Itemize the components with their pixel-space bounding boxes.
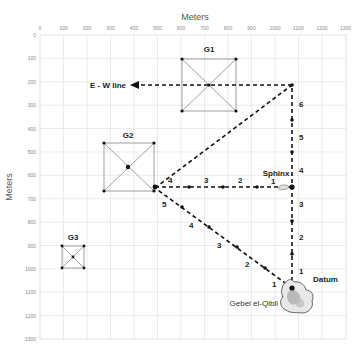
svg-text:1: 1 xyxy=(299,267,304,276)
svg-text:900: 900 xyxy=(28,243,37,249)
y-axis-ticks: 0 100 200 300 400 500 600 700 800 900 10… xyxy=(25,32,36,342)
svg-text:2: 2 xyxy=(238,176,243,185)
svg-text:500: 500 xyxy=(28,149,37,155)
svg-text:800: 800 xyxy=(224,25,233,31)
datum-point xyxy=(289,285,294,290)
svg-text:4: 4 xyxy=(168,176,173,185)
svg-text:600: 600 xyxy=(177,25,186,31)
svg-text:700: 700 xyxy=(200,25,209,31)
svg-text:1200: 1200 xyxy=(25,313,36,319)
sphinx-label: Sphinx xyxy=(263,169,290,178)
giza-layout-diagram: Meters Meters 0 100 200 300 400 500 600 … xyxy=(0,0,360,353)
svg-text:1100: 1100 xyxy=(25,289,36,295)
svg-text:0: 0 xyxy=(33,32,36,38)
svg-text:1: 1 xyxy=(272,280,277,289)
svg-text:1000: 1000 xyxy=(269,25,280,31)
svg-text:700: 700 xyxy=(28,196,37,202)
svg-text:4: 4 xyxy=(189,221,194,230)
datum-label: Datum xyxy=(313,275,338,284)
svg-text:800: 800 xyxy=(28,219,37,225)
svg-text:200: 200 xyxy=(28,79,37,85)
svg-text:1200: 1200 xyxy=(316,25,327,31)
gebel-label: Gebel el-Qibli xyxy=(230,299,279,308)
svg-text:2: 2 xyxy=(299,233,304,242)
svg-text:400: 400 xyxy=(130,25,139,31)
g1-label: G1 xyxy=(204,45,215,54)
svg-text:3: 3 xyxy=(204,176,209,185)
svg-text:300: 300 xyxy=(28,102,37,108)
svg-text:1300: 1300 xyxy=(25,336,36,342)
svg-text:900: 900 xyxy=(247,25,256,31)
svg-text:4: 4 xyxy=(299,166,304,175)
g3-label: G3 xyxy=(68,233,79,242)
svg-text:6: 6 xyxy=(299,100,304,109)
svg-text:400: 400 xyxy=(28,126,37,132)
y-axis-title: Meters xyxy=(4,173,14,201)
svg-text:100: 100 xyxy=(59,25,68,31)
svg-text:1100: 1100 xyxy=(293,25,304,31)
svg-text:5: 5 xyxy=(162,200,167,209)
svg-text:3: 3 xyxy=(217,241,222,250)
svg-text:1300: 1300 xyxy=(340,25,351,31)
svg-text:0: 0 xyxy=(39,25,42,31)
svg-text:2: 2 xyxy=(245,260,250,269)
svg-text:5: 5 xyxy=(299,133,304,142)
svg-text:100: 100 xyxy=(28,55,37,61)
svg-text:3: 3 xyxy=(299,200,304,209)
svg-text:300: 300 xyxy=(106,25,115,31)
svg-text:200: 200 xyxy=(83,25,92,31)
x-axis-title: Meters xyxy=(181,12,209,22)
ew-line-label: E - W line xyxy=(90,81,127,90)
g2-label: G2 xyxy=(123,131,134,140)
svg-text:500: 500 xyxy=(153,25,162,31)
x-axis-ticks: 0 100 200 300 400 500 600 700 800 900 10… xyxy=(39,25,352,31)
svg-text:1000: 1000 xyxy=(25,266,36,272)
svg-text:600: 600 xyxy=(28,172,37,178)
svg-text:1: 1 xyxy=(271,177,276,186)
